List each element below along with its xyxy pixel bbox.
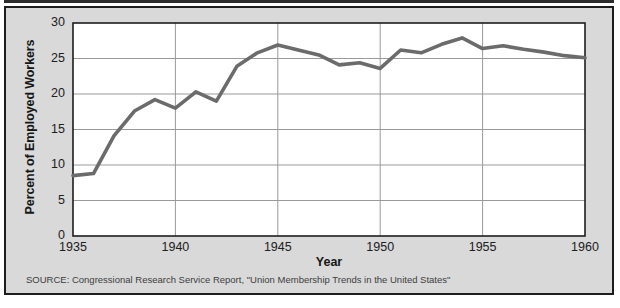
x-axis-title: Year [73, 255, 585, 269]
x-tick-label: 1945 [248, 240, 308, 254]
line-chart: Percent of Employed Workers 051015202530… [0, 0, 620, 308]
y-tick-label: 30 [35, 15, 65, 29]
x-tick-label: 1950 [350, 240, 410, 254]
y-tick-label: 10 [35, 157, 65, 171]
y-tick-label: 15 [35, 122, 65, 136]
y-tick-label: 5 [35, 193, 65, 207]
x-tick-label: 1960 [555, 240, 615, 254]
y-tick-label: 20 [35, 86, 65, 100]
x-tick-label: 1955 [453, 240, 513, 254]
x-tick-label: 1940 [145, 240, 205, 254]
source-note: SOURCE: Congressional Research Service R… [26, 274, 450, 285]
x-tick-label: 1935 [43, 240, 103, 254]
y-tick-label: 25 [35, 51, 65, 65]
